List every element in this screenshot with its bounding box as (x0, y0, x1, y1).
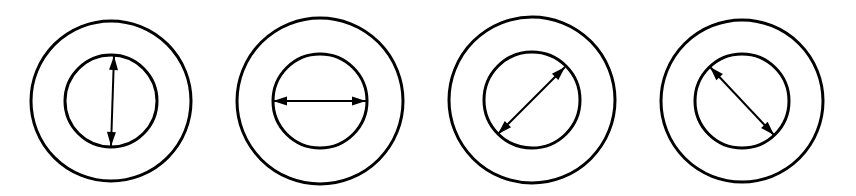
arrow-shaft (498, 67, 565, 134)
arrowhead-end (352, 97, 366, 106)
double-arrow-icon (273, 97, 366, 106)
double-arrow-icon (498, 67, 565, 134)
figures-group (31, 17, 823, 184)
annulus-figure-2 (237, 18, 403, 184)
annulus-figure-1 (31, 21, 191, 181)
double-arrow-icon (710, 67, 774, 135)
arrow-shaft (710, 67, 774, 135)
arrowhead-start (273, 97, 287, 106)
annulus-figure-3 (449, 17, 615, 183)
double-arrow-icon (107, 56, 118, 146)
arrowhead-start (109, 56, 118, 70)
outer-circle (31, 21, 191, 181)
arrowhead-end (107, 132, 116, 146)
annulus-diagram (0, 0, 856, 196)
annulus-figure-4 (661, 20, 823, 182)
